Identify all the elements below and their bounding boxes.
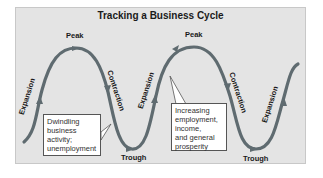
peak-label-2: Peak bbox=[185, 30, 203, 39]
arrow-icon bbox=[126, 146, 135, 152]
callout-expansion-note: Increasing employment, income, and gener… bbox=[171, 103, 227, 151]
trough-label-2: Trough bbox=[243, 154, 268, 163]
arrow-icon bbox=[250, 146, 259, 152]
arrow-icon bbox=[36, 96, 43, 104]
arrow-icon bbox=[280, 97, 287, 106]
peak-label-1: Peak bbox=[66, 31, 84, 40]
callout-contraction-note: Dwindling business activity; unemploymen… bbox=[43, 114, 101, 156]
trough-label-1: Trough bbox=[121, 153, 146, 162]
